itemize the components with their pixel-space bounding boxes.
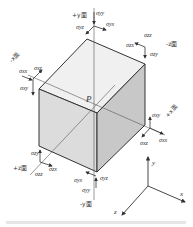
stress-label: σxy [20,85,29,91]
stress-label: σzz [144,32,152,38]
face-minus-x-label: -x面 [7,50,21,64]
stress-cube-diagram: P +y面 σyy σyz σyx -z面 σzz σzx σzy -x面 σx… [0,0,193,227]
cube [39,39,145,172]
face-minus-y-label: -y面 [80,200,92,208]
stress-label: σyz [100,175,109,181]
stress-label: σyz [76,24,85,30]
stress-label: σyx [106,21,115,27]
stress-label: σxz [140,140,149,146]
axis-y-label: y [151,159,156,167]
stress-label: σyy [96,10,105,16]
stress-label: σzx [49,166,57,172]
stress-label: σzz [35,171,43,177]
face-plus-z-label: +z面 [13,164,27,172]
point-p-label: P [85,94,92,104]
caption [6,221,186,224]
stress-label: σxz [34,65,43,71]
stress-label: σyy [82,187,91,193]
face-minus-z-label: -z面 [166,40,177,48]
face-plus-y-label: +y面 [72,11,87,19]
stress-label: σzy [150,51,158,57]
axis-x-label: x [179,190,184,198]
stress-label: σxx [19,68,28,74]
axis-z-label: z [113,208,117,216]
stress-label: σxy [152,112,161,118]
stress-label: σzy [31,150,39,156]
stress-label: σzx [126,42,134,48]
stress-label: σyx [74,177,83,183]
face-plus-x-label: +x面 [163,103,178,119]
stress-label: σxx [159,137,168,143]
